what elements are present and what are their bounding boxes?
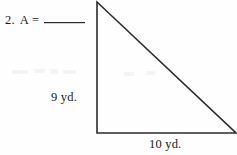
base-dimension-label: 10 yd. [149, 137, 181, 152]
worksheet-page: 2. A = 9 yd. 10 yd. [0, 0, 237, 155]
height-dimension-label: 9 yd. [51, 90, 77, 105]
triangle-outline [97, 2, 236, 133]
right-triangle-figure [0, 0, 237, 155]
